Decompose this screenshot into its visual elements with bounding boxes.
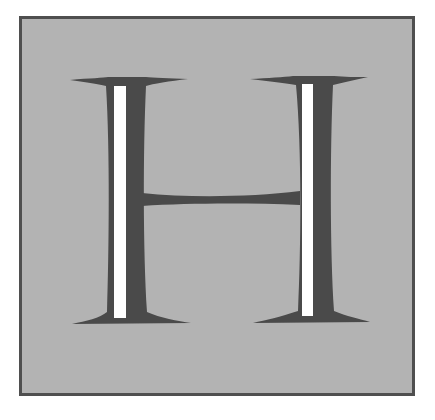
right-inline-highlight	[302, 84, 313, 316]
initial-letter-h-glyph	[0, 0, 435, 420]
left-inline-highlight	[114, 86, 126, 318]
crossbar	[142, 191, 300, 206]
